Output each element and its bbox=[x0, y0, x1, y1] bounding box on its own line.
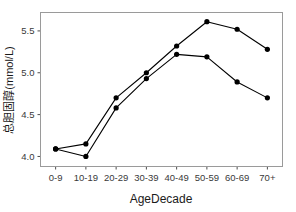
x-tick-label: 30-39 bbox=[134, 172, 158, 183]
chart-container: 4.04.55.05.5 0-910-1920-2930-3940-4950-5… bbox=[0, 0, 296, 212]
data-point bbox=[204, 54, 209, 59]
data-point bbox=[174, 52, 179, 57]
data-point bbox=[144, 76, 149, 81]
data-point bbox=[83, 141, 88, 146]
data-point bbox=[114, 95, 119, 100]
x-tick-label: 0-9 bbox=[49, 172, 63, 183]
data-point bbox=[144, 70, 149, 75]
x-axis-title: AgeDecade bbox=[130, 192, 193, 206]
x-tick-label: 40-49 bbox=[164, 172, 188, 183]
x-tick-label: 10-19 bbox=[74, 172, 98, 183]
y-tick-label: 4.5 bbox=[21, 109, 34, 120]
x-tick-label: 60-69 bbox=[225, 172, 249, 183]
y-tick-label: 4.0 bbox=[21, 151, 34, 162]
data-point bbox=[174, 43, 179, 48]
x-tick-label: 70+ bbox=[259, 172, 276, 183]
data-point bbox=[265, 47, 270, 52]
data-point bbox=[83, 154, 88, 159]
y-axis-title: 总胆固醇(mmol/L) bbox=[2, 46, 15, 133]
x-tick-label: 50-59 bbox=[195, 172, 219, 183]
x-axis-ticks: 0-910-1920-2930-3940-4950-5960-6970+ bbox=[49, 167, 276, 183]
data-point bbox=[235, 79, 240, 84]
data-point bbox=[53, 146, 58, 151]
data-point bbox=[114, 105, 119, 110]
data-point bbox=[235, 27, 240, 32]
line-chart: 4.04.55.05.5 0-910-1920-2930-3940-4950-5… bbox=[0, 0, 296, 212]
data-point bbox=[204, 19, 209, 24]
y-tick-label: 5.5 bbox=[21, 25, 34, 36]
data-point bbox=[265, 95, 270, 100]
x-tick-label: 20-29 bbox=[104, 172, 128, 183]
y-tick-label: 5.0 bbox=[21, 67, 34, 78]
y-axis-ticks: 4.04.55.05.5 bbox=[21, 25, 40, 162]
